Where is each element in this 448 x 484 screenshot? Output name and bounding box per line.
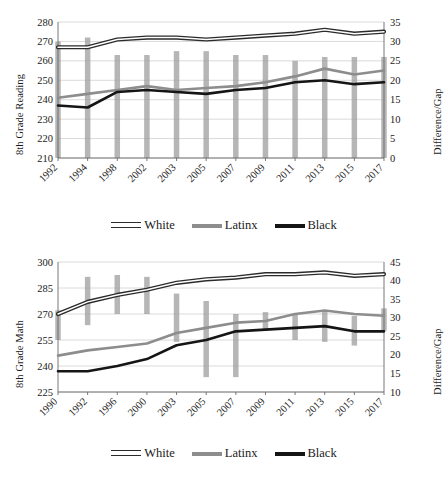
- x-axis-tick-label: 1994: [66, 161, 89, 184]
- x-axis-tick-label: 2009: [244, 162, 267, 185]
- legend-label: Black: [308, 219, 337, 232]
- x-axis-tick-label: 2017: [363, 396, 386, 419]
- legend-entry-white[interactable]: White: [111, 219, 175, 232]
- chart-8th-grade-math: 2252402552702853001015202530354045199019…: [0, 240, 448, 484]
- math-legend: WhiteLatinxBlack: [0, 447, 448, 460]
- x-axis-tick-label: 1998: [96, 162, 119, 185]
- gap-bar: [263, 55, 269, 158]
- secondary-y-axis-tick-label: 5: [390, 133, 395, 144]
- x-axis-tick-label: 2015: [333, 162, 356, 185]
- x-axis-tick-label: 2011: [274, 162, 296, 184]
- gap-bar: [115, 55, 121, 158]
- secondary-y-axis-tick-label: 15: [390, 94, 401, 105]
- x-axis-tick-label: 2003: [155, 396, 178, 419]
- series-line-latinx: [58, 69, 384, 98]
- gap-bar: [322, 57, 328, 158]
- x-axis-tick-label: 1992: [66, 396, 89, 419]
- page-caption-fragment: [0, 472, 448, 484]
- secondary-y-axis-tick-label: 20: [390, 349, 401, 360]
- x-axis-tick-label: 2005: [185, 396, 208, 419]
- x-axis-tick-label: 1992: [37, 162, 60, 185]
- secondary-y-axis-tick-label: 35: [390, 17, 401, 28]
- math-plot-wrap: 2252402552702853001015202530354045199019…: [0, 240, 448, 450]
- secondary-y-axis-tick-label: 30: [390, 36, 401, 47]
- y-axis-tick-label: 250: [37, 75, 53, 86]
- x-axis-tick-label: 2013: [304, 162, 327, 185]
- legend-swatch-black-icon: [275, 452, 305, 457]
- gap-bar: [352, 57, 358, 158]
- secondary-y-axis-tick-label: 10: [390, 387, 401, 398]
- reading-secondary-y-axis-title: Difference/Gap: [432, 88, 443, 155]
- gap-bar: [233, 55, 239, 158]
- x-axis-tick-label: 1990: [37, 396, 60, 419]
- gap-bar: [85, 38, 91, 158]
- gap-bar: [203, 51, 209, 158]
- series-line-black: [58, 80, 384, 107]
- y-axis-tick-label: 300: [37, 257, 53, 268]
- reading-chart-canvas: 2102202302402502602702800510152025303519…: [0, 0, 448, 205]
- x-axis-tick-label: 2003: [155, 162, 178, 185]
- secondary-y-axis-tick-label: 15: [390, 368, 401, 379]
- series-line-white-inner: [58, 272, 384, 314]
- secondary-y-axis-tick-label: 10: [390, 114, 401, 125]
- x-axis-tick-label: 2015: [333, 396, 356, 419]
- reading-y-axis-title: 8th Grade Reading: [14, 74, 25, 155]
- y-axis-tick-label: 280: [37, 17, 53, 28]
- legend-entry-white[interactable]: White: [111, 447, 175, 460]
- reading-legend: WhiteLatinxBlack: [0, 219, 448, 232]
- secondary-y-axis-tick-label: 20: [390, 75, 401, 86]
- legend-label: White: [144, 447, 175, 460]
- y-axis-tick-label: 220: [37, 133, 53, 144]
- reading-plot-wrap: 2102202302402502602702800510152025303519…: [0, 0, 448, 205]
- legend-entry-latinx[interactable]: Latinx: [192, 219, 258, 232]
- x-axis-tick-label: 2002: [126, 162, 149, 185]
- math-chart-canvas: 2252402552702853001015202530354045199019…: [0, 240, 448, 450]
- secondary-y-axis-tick-label: 0: [390, 153, 395, 164]
- secondary-y-axis-tick-label: 35: [390, 294, 401, 305]
- legend-label: Latinx: [225, 447, 258, 460]
- legend-swatch-latinx-icon: [192, 452, 222, 456]
- y-axis-tick-label: 270: [37, 36, 53, 47]
- x-axis-tick-label: 2007: [215, 162, 238, 185]
- secondary-y-axis-tick-label: 25: [390, 331, 401, 342]
- legend-swatch-black-icon: [275, 224, 305, 229]
- series-line-latinx: [58, 311, 384, 356]
- y-axis-tick-label: 230: [37, 114, 53, 125]
- y-axis-tick-label: 270: [37, 309, 53, 320]
- gap-bar: [144, 277, 150, 314]
- math-secondary-y-axis-title: Difference/Gap: [432, 328, 443, 395]
- legend-label: Latinx: [225, 219, 258, 232]
- x-axis-tick-label: 2007: [215, 396, 238, 419]
- x-axis-tick-label: 2013: [304, 396, 327, 419]
- y-axis-tick-label: 260: [37, 55, 53, 66]
- y-axis-tick-label: 240: [37, 94, 53, 105]
- legend-entry-latinx[interactable]: Latinx: [192, 447, 258, 460]
- y-axis-tick-label: 240: [37, 361, 53, 372]
- y-axis-tick-label: 255: [37, 335, 53, 346]
- legend-swatch-latinx-icon: [192, 224, 222, 228]
- gap-bar: [144, 55, 150, 158]
- math-y-axis-title: 8th Grade Math: [14, 320, 25, 388]
- secondary-y-axis-tick-label: 25: [390, 55, 401, 66]
- x-axis-tick-label: 2011: [274, 396, 296, 418]
- x-axis-tick-label: 2017: [363, 162, 386, 185]
- x-axis-tick-label: 1996: [96, 396, 119, 419]
- legend-swatch-white-icon: [111, 450, 141, 456]
- figure-page: 2102202302402502602702800510152025303519…: [0, 0, 448, 484]
- x-axis-tick-label: 2005: [185, 162, 208, 185]
- chart-8th-grade-reading: 2102202302402502602702800510152025303519…: [0, 0, 448, 240]
- x-axis-tick-label: 2009: [244, 396, 267, 419]
- legend-label: Black: [308, 447, 337, 460]
- legend-entry-black[interactable]: Black: [275, 219, 337, 232]
- legend-entry-black[interactable]: Black: [275, 447, 337, 460]
- y-axis-tick-label: 285: [37, 283, 53, 294]
- secondary-y-axis-tick-label: 30: [390, 312, 401, 323]
- secondary-y-axis-tick-label: 40: [390, 275, 401, 286]
- legend-swatch-white-icon: [111, 222, 141, 228]
- x-axis-tick-label: 2000: [126, 396, 149, 419]
- legend-label: White: [144, 219, 175, 232]
- gap-bar: [174, 51, 180, 158]
- secondary-y-axis-tick-label: 45: [390, 257, 401, 268]
